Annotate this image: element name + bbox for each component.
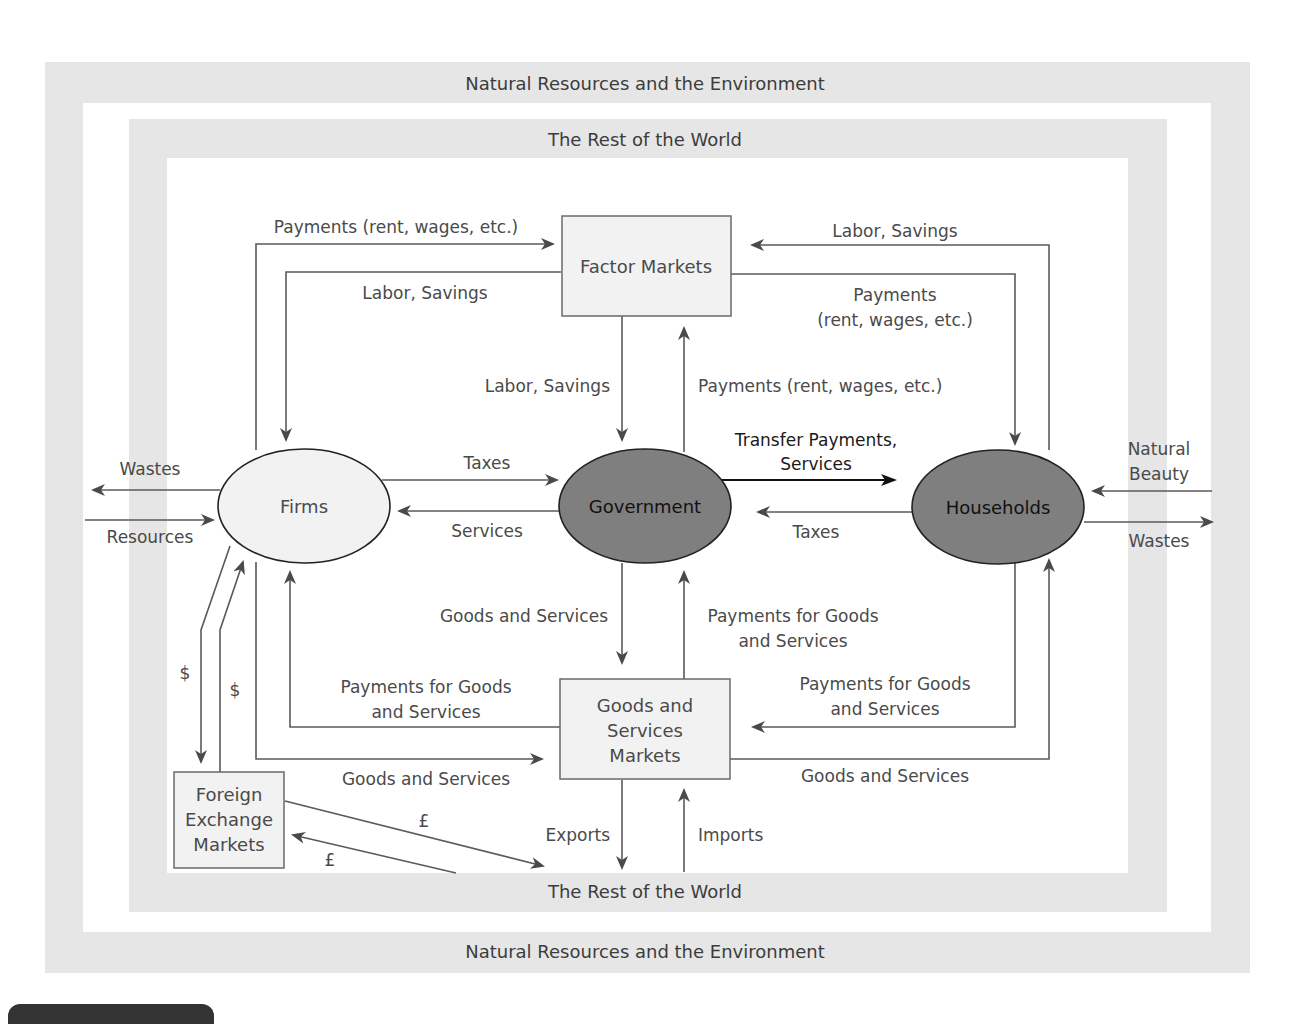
goods-markets-label-1: Goods and — [597, 695, 693, 716]
label-households-to-goods-2: and Services — [830, 699, 939, 719]
label-natural-beauty-1: Natural — [1128, 439, 1191, 459]
label-natural-beauty-2: Beauty — [1129, 464, 1189, 484]
label-households-wastes: Wastes — [1129, 531, 1190, 551]
bottom-tab-shape — [8, 1004, 214, 1024]
label-dollar-up: $ — [230, 680, 241, 700]
label-government-to-factor: Payments (rent, wages, etc.) — [698, 376, 942, 396]
label-transfer-1: Transfer Payments, — [734, 430, 897, 450]
forex-label-1: Foreign — [196, 784, 263, 805]
environment-label-bottom: Natural Resources and the Environment — [465, 941, 825, 962]
forex-label-3: Markets — [193, 834, 264, 855]
firms-label: Firms — [280, 496, 328, 517]
label-households-taxes: Taxes — [792, 522, 840, 542]
label-pound-out: £ — [419, 811, 430, 831]
label-dollar-down: $ — [180, 663, 191, 683]
label-factor-to-government: Labor, Savings — [485, 376, 610, 396]
goods-markets-label-2: Services — [607, 720, 683, 741]
label-firms-to-goods: Goods and Services — [342, 769, 510, 789]
foreign-exchange-markets-node[interactable]: Foreign Exchange Markets — [174, 772, 284, 868]
factor-markets-node[interactable]: Factor Markets — [562, 216, 731, 316]
label-firms-taxes: Taxes — [463, 453, 511, 473]
firms-node[interactable]: Firms — [218, 449, 390, 563]
label-pound-in: £ — [325, 850, 336, 870]
label-government-services: Services — [451, 521, 523, 541]
label-firms-wastes: Wastes — [120, 459, 181, 479]
label-goods-to-firms-2: and Services — [371, 702, 480, 722]
label-goods-to-firms-1: Payments for Goods — [340, 677, 511, 697]
label-imports: Imports — [698, 825, 763, 845]
label-goods-to-government-2: and Services — [738, 631, 847, 651]
government-node[interactable]: Government — [559, 449, 731, 563]
factor-markets-label: Factor Markets — [580, 256, 712, 277]
label-factor-to-firms: Labor, Savings — [362, 283, 487, 303]
label-exports: Exports — [545, 825, 610, 845]
label-resources: Resources — [107, 527, 194, 547]
environment-label-top: Natural Resources and the Environment — [465, 73, 825, 94]
label-goods-to-households: Goods and Services — [801, 766, 969, 786]
goods-markets-label-3: Markets — [609, 745, 680, 766]
rest-of-world-label-bottom: The Rest of the World — [547, 881, 742, 902]
label-goods-to-government-1: Payments for Goods — [707, 606, 878, 626]
government-label: Government — [589, 496, 701, 517]
goods-services-markets-node[interactable]: Goods and Services Markets — [560, 679, 730, 779]
label-households-to-factor: Labor, Savings — [832, 221, 957, 241]
label-factor-to-households-1: Payments — [853, 285, 936, 305]
households-label: Households — [946, 497, 1051, 518]
households-node[interactable]: Households — [912, 450, 1084, 564]
label-transfer-2: Services — [780, 454, 852, 474]
rest-of-world-label-top: The Rest of the World — [547, 129, 742, 150]
label-factor-to-households-2: (rent, wages, etc.) — [817, 310, 973, 330]
forex-label-2: Exchange — [185, 809, 273, 830]
label-households-to-goods-1: Payments for Goods — [799, 674, 970, 694]
label-firms-to-factor: Payments (rent, wages, etc.) — [274, 217, 518, 237]
label-government-to-goods: Goods and Services — [440, 606, 608, 626]
